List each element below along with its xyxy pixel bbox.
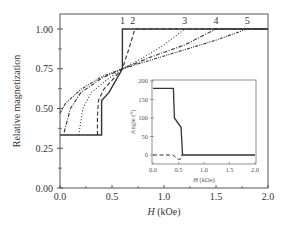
inset-x-tick-label: 0.5 [174,166,182,173]
inset-y-axis-title: Angle (°) [129,110,137,134]
main-y-axis-title: Relative magnetization [11,55,22,147]
x-tick-label: 0.5 [106,191,119,202]
curve-label-4: 4 [214,15,219,26]
x-tick-label: 1.0 [158,191,171,202]
y-tick-label: 0.75 [36,63,54,74]
inset-x-tick-label: 2.0 [251,166,259,173]
inset-x-axis-unit: (kOe) [198,176,215,184]
x-tick-label: 2.0 [262,191,275,202]
curve-label-3: 3 [182,15,187,26]
inset-x-tick-label: 1.0 [200,166,208,173]
inset-y-tick-label: 50 [142,133,149,140]
inset-chart: 0.00.51.01.52.0050100150200 Angle (°) H … [129,77,259,184]
x-tick-label: 1.5 [210,191,223,202]
inset-y-tick-label: 0 [145,151,148,158]
inset-x-axis-title: H (kOe) [192,176,215,184]
curve-label-5: 5 [245,15,250,26]
inset-y-tick-label: 200 [138,77,148,84]
inset-y-tick-label: 150 [138,96,148,103]
inset-y-tick-label: 100 [138,114,148,121]
curve-label-2: 2 [130,15,135,26]
inset-x-tick-label: 0.0 [149,166,157,173]
chart-figure: 0.00.51.01.52.00.000.250.500.751.00 1234… [0,0,288,231]
y-tick-label: 0.00 [36,183,54,194]
inset-plot-frame [152,80,256,164]
main-x-axis-title: H (kOe) [146,206,180,218]
curve-labels: 12345 [120,15,250,26]
chart-svg: 0.00.51.01.52.00.000.250.500.751.00 1234… [0,0,288,231]
curve-label-1: 1 [120,15,125,26]
y-tick-label: 0.50 [36,103,54,114]
y-tick-label: 0.25 [36,143,54,154]
inset-x-tick-label: 1.5 [225,166,233,173]
main-x-axis-unit: (kOe) [155,206,181,218]
x-tick-label: 0.0 [54,191,67,202]
y-tick-label: 1.00 [36,24,54,35]
